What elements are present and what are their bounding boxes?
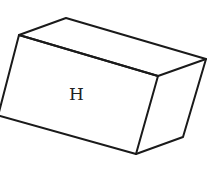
top-face bbox=[19, 18, 206, 76]
prism-diagram: H bbox=[0, 0, 212, 169]
face-label-h: H bbox=[69, 84, 84, 104]
